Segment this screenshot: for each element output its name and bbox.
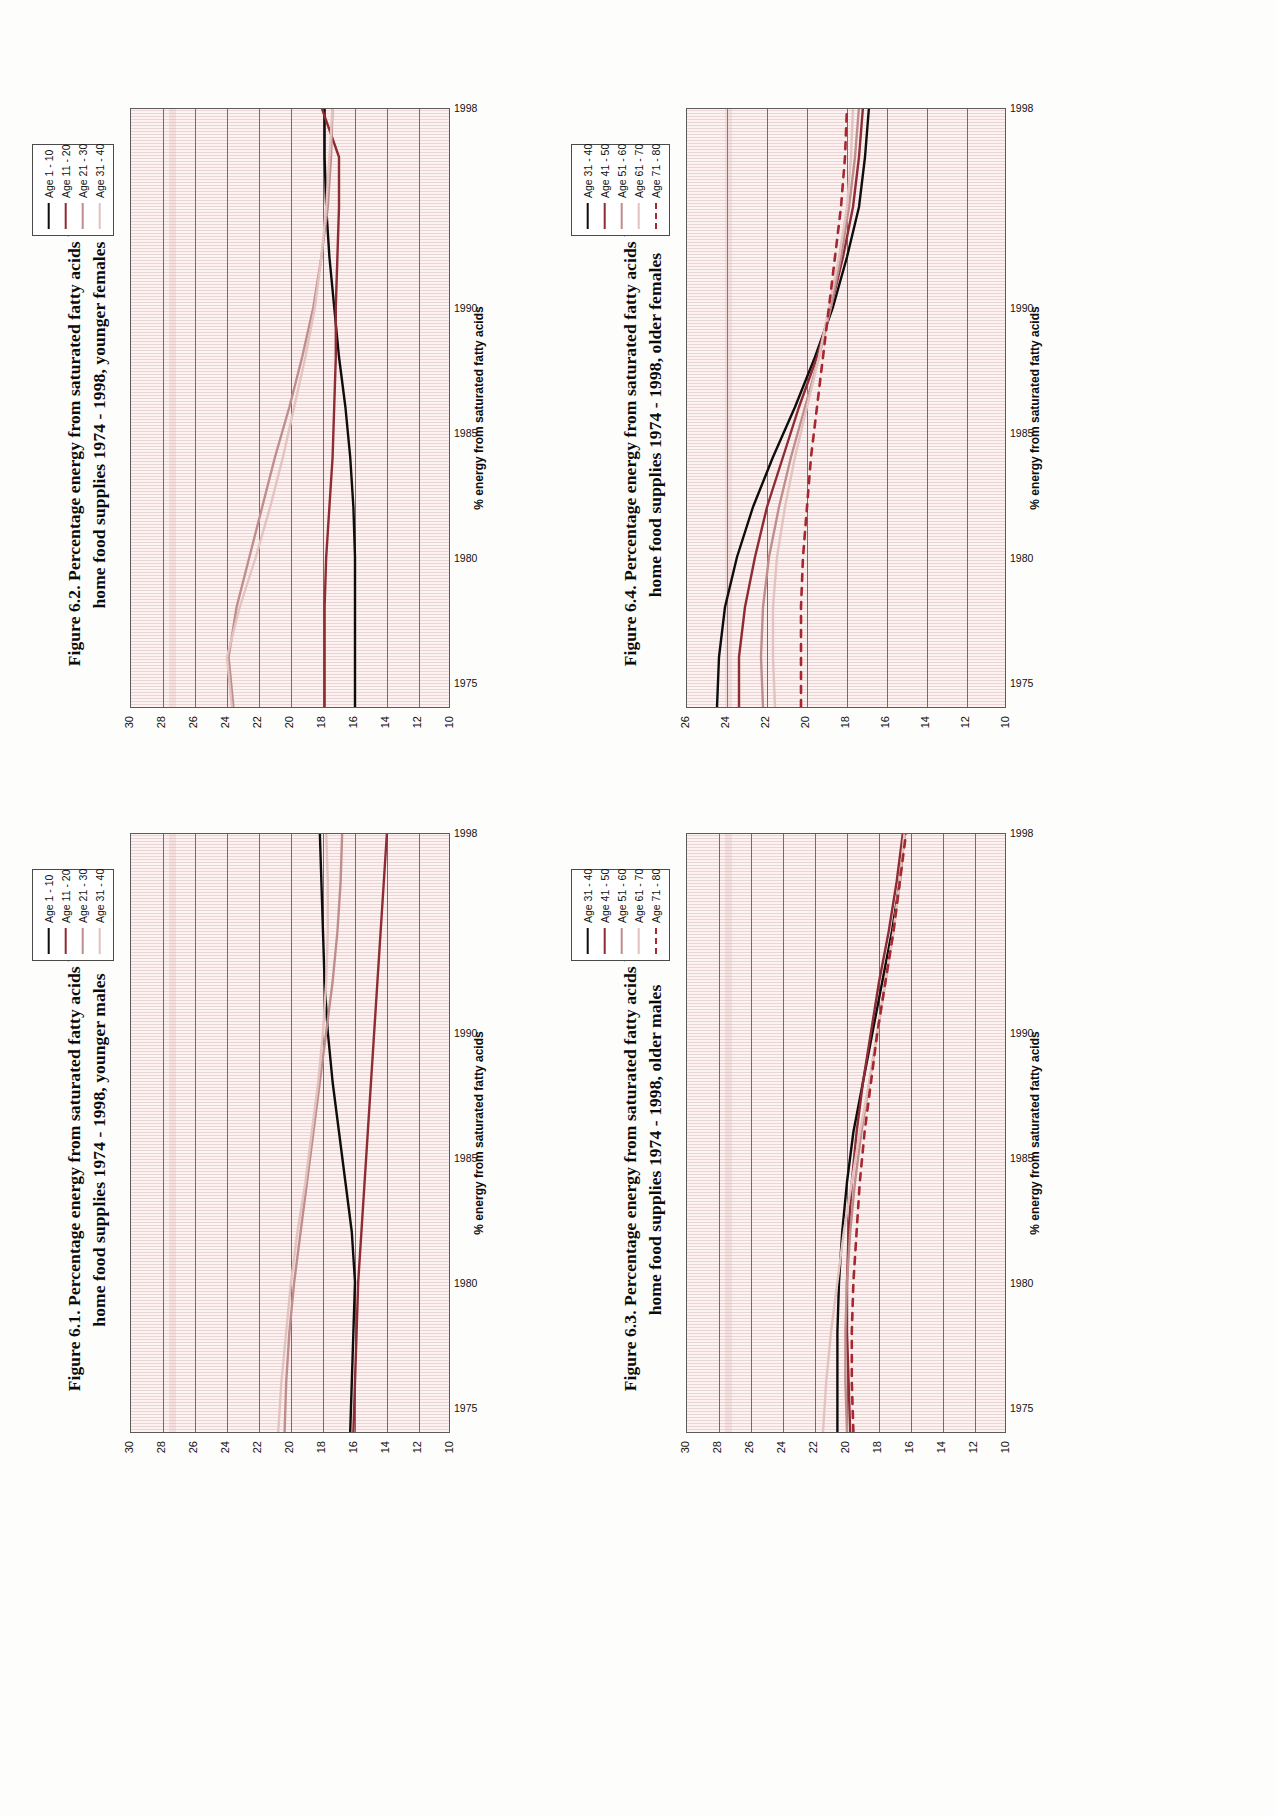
legend-swatch (599, 203, 611, 229)
legend-label: Age 71 - 80 (650, 869, 662, 923)
figure-6-1-legend: Age 1 - 10Age 11 - 20Age 21 - 30Age 31 -… (32, 869, 114, 961)
y-axis-tick-label: 20 (839, 1441, 851, 1495)
legend-item[interactable]: Age 31 - 40 (91, 870, 108, 960)
legend-item[interactable]: Age 1 - 10 (40, 870, 57, 960)
figure-6-2-rotated-content: Figure 6.2. Percentage energy from satur… (62, 80, 522, 770)
legend-item[interactable]: Age 71 - 80 (647, 145, 664, 235)
legend-item[interactable]: Age 51 - 60 (613, 870, 630, 960)
y-axis-tick-label: 10 (443, 1441, 455, 1495)
legend-item[interactable]: Age 51 - 60 (613, 145, 630, 235)
series-line-age-21-30 (285, 833, 343, 1432)
y-axis-tick-label: 20 (799, 716, 811, 770)
figure-6-1: Figure 6.1. Percentage energy from satur… (0, 770, 600, 1816)
y-axis-tick-label: 12 (411, 1441, 423, 1495)
legend-swatch (650, 203, 662, 229)
legend-item[interactable]: Age 31 - 40 (579, 145, 596, 235)
legend-swatch (616, 928, 628, 954)
figure-6-2-plot-wrap: 3028262422201816141210% energy from satu… (124, 80, 522, 770)
figure-6-4-legend: Age 31 - 40Age 41 - 50Age 51 - 60Age 61 … (571, 144, 670, 236)
legend-swatch (582, 928, 594, 954)
figure-6-2-plot-area (130, 108, 450, 708)
figure-6-4-series-layer (687, 108, 1006, 707)
y-axis-tick-label: 18 (315, 716, 327, 770)
figure-6-2-legend: Age 1 - 10Age 11 - 20Age 21 - 30Age 31 -… (32, 144, 114, 236)
x-axis-tick-label: 1998 (1010, 827, 1033, 839)
series-line-age-31-40 (717, 108, 869, 707)
y-axis-tick-label: 24 (219, 716, 231, 770)
legend-label: Age 71 - 80 (650, 144, 662, 198)
legend-label: Age 31 - 40 (582, 144, 594, 198)
figure-6-3-plot-wrap: 3028262422201816141210% energy from satu… (680, 805, 1078, 1495)
figure-6-4-plot-wrap: 262422201816141210% energy from saturate… (680, 80, 1078, 770)
y-axis-tick-label: 26 (187, 716, 199, 770)
legend-item[interactable]: Age 31 - 40 (579, 870, 596, 960)
legend-item[interactable]: Age 1 - 10 (40, 145, 57, 235)
figure-6-4-rotated-content: Figure 6.4. Percentage energy from satur… (618, 80, 1078, 770)
legend-swatch (633, 928, 645, 954)
y-axis-tick-label: 30 (679, 1441, 691, 1495)
y-axis-tick-label: 14 (919, 716, 931, 770)
legend-swatch (94, 203, 106, 229)
figure-6-3-plot-area (686, 833, 1006, 1433)
legend-label: Age 1 - 10 (43, 875, 55, 923)
legend-item[interactable]: Age 61 - 70 (630, 870, 647, 960)
legend-swatch (43, 928, 55, 954)
y-axis-tick-label: 22 (251, 1441, 263, 1495)
x-axis-tick-label: 1975 (454, 677, 477, 689)
y-axis-tick-label: 22 (251, 716, 263, 770)
y-axis-tick-label: 22 (759, 716, 771, 770)
series-line-age-11-20 (353, 833, 387, 1432)
y-axis-tick-label: 28 (711, 1441, 723, 1495)
legend-swatch (77, 928, 89, 954)
y-axis-tick-label: 24 (775, 1441, 787, 1495)
legend-item[interactable]: Age 11 - 20 (57, 145, 74, 235)
legend-item[interactable]: Age 21 - 30 (74, 870, 91, 960)
x-axis-tick-label: 1985 (454, 427, 477, 439)
legend-swatch (77, 203, 89, 229)
legend-swatch (60, 203, 72, 229)
y-axis-tick-label: 24 (219, 1441, 231, 1495)
x-axis-tick-label: 1998 (1010, 102, 1033, 114)
legend-item[interactable]: Age 41 - 50 (596, 870, 613, 960)
x-axis-tick-label: 1980 (1010, 552, 1033, 564)
legend-label: Age 11 - 20 (60, 144, 72, 198)
legend-label: Age 61 - 70 (633, 144, 645, 198)
y-axis-title: % energy from saturated fatty acids (1028, 1031, 1042, 1234)
legend-item[interactable]: Age 21 - 30 (74, 145, 91, 235)
x-axis-tick-label: 1975 (1010, 677, 1033, 689)
x-axis-tick-label: 1985 (454, 1152, 477, 1164)
y-axis-tick-label: 18 (839, 716, 851, 770)
y-axis-tick-label: 12 (411, 716, 423, 770)
figure-6-3-series-layer (687, 833, 1006, 1432)
legend-swatch (43, 203, 55, 229)
y-axis-tick-label: 16 (903, 1441, 915, 1495)
legend-item[interactable]: Age 31 - 40 (91, 145, 108, 235)
legend-label: Age 41 - 50 (599, 869, 611, 923)
legend-label: Age 11 - 20 (60, 869, 72, 923)
figure-6-1-plot-wrap: 3028262422201816141210% energy from satu… (124, 805, 522, 1495)
legend-item[interactable]: Age 71 - 80 (647, 870, 664, 960)
figure-6-2: Figure 6.2. Percentage energy from satur… (0, 0, 600, 790)
y-axis-tick-label: 26 (187, 1441, 199, 1495)
figure-6-3-legend: Age 31 - 40Age 41 - 50Age 51 - 60Age 61 … (571, 869, 670, 961)
legend-swatch (650, 928, 662, 954)
figure-6-3: Figure 6.3. Percentage energy from satur… (560, 770, 1276, 1816)
y-axis-tick-label: 16 (879, 716, 891, 770)
figure-6-3-rotated-content: Figure 6.3. Percentage energy from satur… (618, 805, 1078, 1495)
y-axis-tick-label: 22 (807, 1441, 819, 1495)
legend-label: Age 1 - 10 (43, 150, 55, 198)
series-line-age-51-60 (761, 108, 859, 707)
legend-item[interactable]: Age 11 - 20 (57, 870, 74, 960)
legend-label: Age 21 - 30 (77, 869, 89, 923)
y-axis-tick-label: 20 (283, 1441, 295, 1495)
series-line-age-21-30 (229, 108, 333, 707)
x-axis-tick-label: 1998 (454, 102, 477, 114)
y-axis-tick-label: 16 (347, 1441, 359, 1495)
x-axis-tick-label: 1980 (454, 552, 477, 564)
legend-label: Age 31 - 40 (94, 144, 106, 198)
y-axis-tick-label: 12 (959, 716, 971, 770)
legend-item[interactable]: Age 61 - 70 (630, 145, 647, 235)
legend-item[interactable]: Age 41 - 50 (596, 145, 613, 235)
legend-swatch (599, 928, 611, 954)
y-axis-tick-label: 30 (123, 716, 135, 770)
